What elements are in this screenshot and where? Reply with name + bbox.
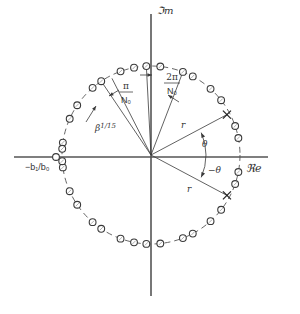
beta-label: β1/15	[94, 122, 116, 133]
pi-over-n0-numerator: π	[123, 81, 129, 91]
beta-exponent: 1/15	[100, 122, 116, 130]
theta-label: θ	[202, 139, 208, 149]
beta-leader-head	[92, 106, 96, 111]
zeros-group	[53, 63, 242, 248]
neg-theta-label: −θ	[208, 165, 222, 175]
two-pi-over-n0-denominator: N₀	[167, 86, 177, 96]
two-pi-over-n0-numerator: 2π	[166, 72, 178, 82]
r-label-lower: r	[187, 184, 192, 194]
poles-group	[223, 111, 231, 200]
real-zero-label: −b₁/b₀	[25, 162, 50, 172]
real-zero-marker	[53, 154, 60, 161]
real-axis-label: ℜe	[246, 162, 262, 175]
r-label-upper: r	[181, 120, 186, 130]
ray-pi-a	[112, 78, 151, 155]
neg-theta-arrowhead	[201, 172, 205, 177]
pole-zero-diagram: ℑm ℜe π N₀ 2π N₀ β1/15 r θ −θ r −b₁/b₀	[0, 0, 300, 314]
imag-axis-label: ℑm	[157, 5, 173, 16]
ray-r-upper	[151, 114, 228, 155]
pi-over-n0-denominator: N₀	[121, 95, 131, 105]
theta-arrowhead	[201, 133, 205, 138]
